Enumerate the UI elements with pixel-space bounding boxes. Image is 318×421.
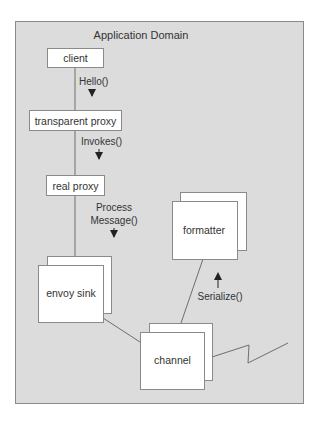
edge-hello-label: Hello()	[79, 76, 108, 87]
edge-process-label-line2: Message()	[90, 215, 137, 226]
node-transparent-proxy: transparent proxy	[30, 111, 122, 131]
node-formatter-label: formatter	[183, 224, 226, 236]
node-envoy-sink: envoy sink	[39, 257, 112, 323]
node-real-proxy-label: real proxy	[52, 180, 99, 192]
edge-invokes-label: Invokes()	[81, 136, 122, 147]
node-transparent-proxy-label: transparent proxy	[35, 115, 117, 127]
node-channel-label: channel	[154, 354, 191, 366]
node-formatter: formatter	[173, 193, 247, 260]
node-channel: channel	[141, 324, 213, 390]
edge-serialize-label: Serialize()	[197, 291, 242, 302]
diagram-canvas: Application Domain client Hello() transp…	[0, 0, 318, 421]
domain-title: Application Domain	[94, 29, 189, 41]
node-real-proxy: real proxy	[47, 176, 105, 196]
edge-process-label-line1: Process	[96, 202, 132, 213]
node-client: client	[48, 49, 104, 68]
node-client-label: client	[63, 52, 88, 64]
node-envoy-sink-label: envoy sink	[46, 287, 96, 299]
